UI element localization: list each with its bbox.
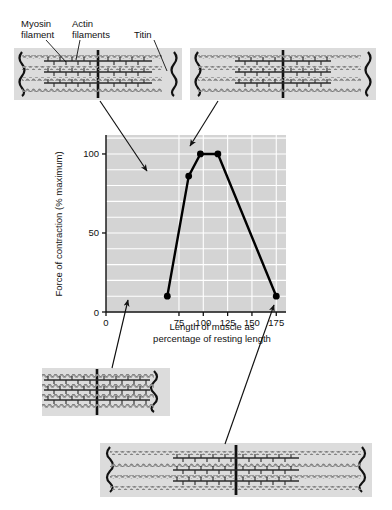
y-tick-labels: 050100 [83, 148, 99, 317]
leader-titin [154, 40, 167, 71]
data-point [185, 173, 192, 180]
data-point [197, 151, 204, 158]
chart-svg: 075100125150175 050100 Force of contract… [0, 0, 392, 510]
x-axis-label-line2: percentage of resting length [153, 333, 271, 344]
x-tick-label: 0 [103, 317, 108, 328]
label-leader-lines [46, 40, 167, 71]
x-tick-label: 175 [268, 317, 284, 328]
y-tick-label: 50 [88, 227, 99, 238]
figure-root: Myosin filament Actin filaments Titin [0, 0, 392, 510]
data-point [164, 293, 171, 300]
leader-actin [76, 40, 80, 60]
data-point [214, 151, 221, 158]
y-tick-label: 0 [94, 307, 99, 318]
leader-myosin [46, 40, 66, 62]
y-tick-label: 100 [83, 148, 99, 159]
x-axis-label-line1: Length of muscle as [169, 321, 254, 332]
y-axis-label: Force of contraction (% maximum) [53, 151, 64, 296]
data-point [273, 293, 280, 300]
